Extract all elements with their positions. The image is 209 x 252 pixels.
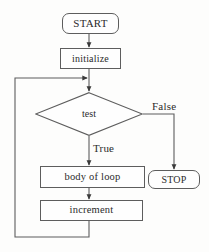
node-increment[interactable]: increment (40, 200, 143, 221)
edge-label-true: True (93, 142, 114, 154)
node-body-of-loop-label: body of loop (64, 172, 120, 183)
node-test-decision[interactable]: test (35, 92, 143, 136)
edge-test-stop (143, 114, 174, 169)
node-start-label: START (73, 18, 107, 29)
flowchart-canvas: START initialize test body of loop incre… (0, 0, 209, 252)
node-initialize[interactable]: initialize (60, 48, 121, 69)
node-initialize-label: initialize (72, 54, 109, 64)
node-stop[interactable]: STOP (148, 170, 200, 189)
edge-label-false: False (152, 100, 176, 112)
node-body-of-loop[interactable]: body of loop (40, 166, 145, 188)
node-stop-label: STOP (161, 175, 186, 185)
node-increment-label: increment (70, 205, 114, 216)
node-start[interactable]: START (62, 13, 119, 34)
node-test-label: test (82, 109, 96, 119)
node-test-label-wrap: test (35, 92, 143, 136)
